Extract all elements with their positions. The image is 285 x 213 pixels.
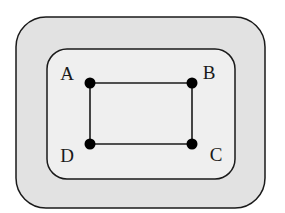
node-label-a: A [60, 63, 74, 84]
node-b [187, 78, 198, 89]
diagram-canvas: ABCD [0, 0, 285, 213]
node-label-c: C [210, 144, 223, 165]
node-a [85, 78, 96, 89]
node-d [85, 139, 96, 150]
node-c [187, 139, 198, 150]
node-label-d: D [60, 145, 74, 166]
node-label-b: B [203, 62, 216, 83]
